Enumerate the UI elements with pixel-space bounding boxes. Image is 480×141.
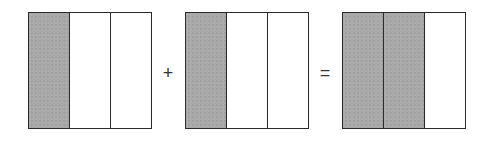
plus-sign: +	[160, 62, 176, 84]
shaded-part	[186, 13, 226, 128]
shaded-part	[383, 13, 424, 128]
empty-part	[110, 13, 151, 128]
empty-part	[424, 13, 465, 128]
shaded-part	[343, 13, 383, 128]
empty-part	[226, 13, 267, 128]
fraction-model-one-third-a	[28, 12, 152, 129]
fraction-model-two-thirds	[342, 12, 466, 129]
equals-sign: =	[317, 62, 333, 84]
fraction-model-one-third-b	[185, 12, 309, 129]
empty-part	[267, 13, 308, 128]
shaded-part	[29, 13, 69, 128]
empty-part	[69, 13, 110, 128]
